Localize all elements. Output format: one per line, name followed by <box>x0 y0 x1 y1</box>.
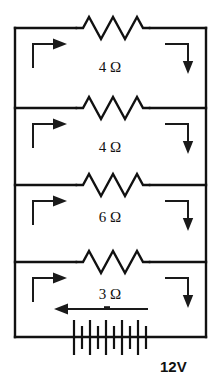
branch-4-resistance-label: 3 Ω <box>99 286 121 302</box>
branch-2-right-current-arrow <box>165 124 193 154</box>
branch-4-left-arrowhead <box>53 273 67 284</box>
circuit-schematic-canvas: 4 Ω 4 Ω <box>0 0 221 380</box>
branch-3-left-arrowhead <box>53 196 67 207</box>
branch-1-resistor-4ohm <box>76 17 150 39</box>
battery-current-arrowhead <box>54 304 68 315</box>
branch-3-left-current-arrow <box>33 196 67 226</box>
branch-2-left-current-arrow <box>33 119 67 149</box>
branch-4-right-arrowhead <box>183 295 193 308</box>
branch-1-left-arrowhead <box>53 39 67 50</box>
branch-2-group: 4 Ω <box>15 97 206 155</box>
branch-4-group: 3 Ω <box>15 251 206 308</box>
branch-2-resistor-4ohm <box>76 97 150 119</box>
branch-2-left-arrowhead <box>53 119 67 130</box>
branch-2-right-arrowhead <box>183 141 193 154</box>
branch-2-resistance-label: 4 Ω <box>99 139 121 155</box>
branch-3-right-arrowhead <box>183 218 193 231</box>
branch-4-left-current-arrow <box>33 273 67 303</box>
battery-voltage-label: 12V <box>160 358 187 375</box>
branch-4-resistor-3ohm <box>76 251 150 273</box>
branch-1-group: 4 Ω <box>15 17 206 75</box>
branch-4-right-current-arrow <box>165 278 193 308</box>
branch-1-resistance-label: 4 Ω <box>99 59 121 75</box>
branch-1-left-current-arrow <box>33 39 67 69</box>
branch-3-group: 6 Ω <box>15 174 206 231</box>
battery-current-arrow <box>54 304 148 315</box>
circuit-diagram: 4 Ω 4 Ω <box>0 0 221 380</box>
branch-3-right-current-arrow <box>165 201 193 231</box>
branch-3-resistance-label: 6 Ω <box>99 209 121 225</box>
branch-3-resistor-6ohm <box>76 174 150 196</box>
branch-1-right-arrowhead <box>183 61 193 74</box>
branch-1-right-current-arrow <box>165 44 193 74</box>
current-arrow-tick <box>104 306 110 309</box>
